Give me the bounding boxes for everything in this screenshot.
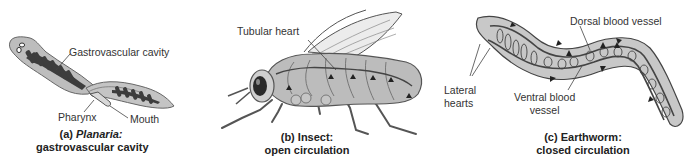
label-pharynx: Pharynx: [58, 111, 97, 123]
caption-title: (c) Earthworm:: [528, 131, 638, 144]
caption-letter: (a): [60, 128, 73, 140]
earthworm-body: [476, 16, 683, 126]
label-gastrovascular-cavity: Gastrovascular cavity: [69, 46, 169, 58]
label-lateral-hearts: Lateral hearts: [444, 84, 476, 110]
label-lateral-hearts-line1: Lateral: [444, 84, 476, 97]
eye-icon: [17, 47, 21, 52]
label-ventral-line2: vessel: [514, 104, 575, 117]
label-mouth: Mouth: [130, 113, 159, 125]
panel-planaria: Gastrovascular cavity Pharynx Mouth (a) …: [0, 0, 200, 161]
planaria-illustration: [0, 0, 200, 120]
eye-icon: [19, 43, 24, 47]
label-ventral-line1: Ventral blood: [514, 91, 575, 104]
caption-organism: Planaria:: [76, 128, 122, 140]
caption-title: (b) Insect:: [262, 131, 352, 144]
caption-subtitle: gastrovascular cavity: [36, 141, 146, 154]
insect-illustration: [200, 0, 450, 140]
label-tubular-heart: Tubular heart: [237, 25, 299, 37]
caption-subtitle: closed circulation: [528, 144, 638, 157]
label-dorsal-blood-vessel: Dorsal blood vessel: [570, 15, 662, 27]
label-ventral-blood-vessel: Ventral blood vessel: [514, 91, 575, 117]
compound-eye-icon: [253, 76, 267, 96]
wing-shape: [308, 12, 402, 56]
caption-earthworm: (c) Earthworm: closed circulation: [528, 131, 638, 157]
caption-planaria: (a) Planaria: gastrovascular cavity: [36, 128, 146, 154]
panel-earthworm: Dorsal blood vessel Lateral hearts Ventr…: [450, 0, 684, 161]
panel-insect: Tubular heart (b) Insect: open circulati…: [200, 0, 450, 161]
insect-body: [266, 53, 422, 106]
caption-subtitle: open circulation: [262, 144, 352, 157]
label-lateral-hearts-line2: hearts: [444, 97, 476, 110]
caption-insect: (b) Insect: open circulation: [262, 131, 352, 157]
